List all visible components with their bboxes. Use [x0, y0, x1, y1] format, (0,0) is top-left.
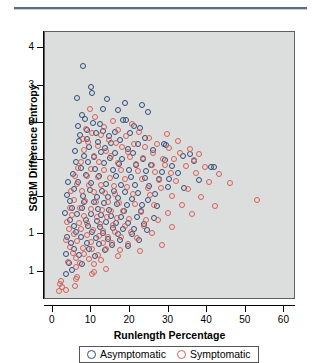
x-axis-tick-label: 60 [263, 314, 303, 325]
scatter-point [131, 141, 137, 147]
y-axis-tick-label: 4 [0, 42, 34, 52]
scatter-point [216, 171, 222, 177]
scatter-point [113, 173, 119, 179]
scatter-point [139, 102, 145, 108]
scatter-point [122, 176, 128, 182]
scatter-point [114, 215, 120, 221]
scatter-point [67, 205, 73, 211]
scatter-point [134, 214, 140, 220]
scatter-point [159, 242, 165, 248]
x-axis-tick [52, 306, 53, 312]
x-axis-tick-label: 50 [225, 314, 265, 325]
legend-marker-circle-icon [87, 350, 96, 359]
scatter-point [175, 170, 181, 176]
scatter-point [202, 164, 208, 170]
scatter-point [97, 221, 103, 227]
scatter-point [156, 177, 162, 183]
scatter-point [154, 141, 160, 147]
scatter-point [137, 248, 143, 254]
scatter-point [62, 210, 68, 216]
x-axis-tick [206, 306, 207, 312]
scatter-point [187, 146, 193, 152]
scatter-point [132, 201, 138, 207]
scatter-point [191, 157, 197, 163]
y-axis-tick-label: 3 [0, 80, 34, 90]
y-axis-tick [37, 85, 43, 86]
legend-item-asymptomatic[interactable]: Asymptomatic [87, 349, 166, 360]
y-axis-tick-label: 2 [0, 191, 34, 201]
scatter-point [106, 137, 112, 143]
x-axis-tick [283, 306, 284, 312]
scatter-point [73, 264, 79, 270]
scatter-point [74, 95, 80, 101]
y-axis-tick-label: 1 [0, 228, 34, 238]
scatter-point [112, 229, 118, 235]
scatter-point [93, 199, 99, 205]
scatter-point [126, 216, 132, 222]
scatter-point [100, 106, 106, 112]
scatter-point [147, 192, 153, 198]
plot-panel [44, 31, 295, 299]
scatter-point [64, 219, 70, 225]
scatter-point [128, 174, 134, 180]
y-axis-line [43, 31, 44, 299]
scatter-point [150, 150, 156, 156]
legend-label: Symptomatic [190, 349, 251, 360]
scatter-point [193, 170, 199, 176]
scatter-point [104, 96, 110, 102]
scatter-point [155, 217, 161, 223]
scatter-point [80, 245, 86, 251]
scatter-point [72, 283, 78, 289]
scatter-point [82, 198, 88, 204]
scatter-point [206, 179, 212, 185]
scatter-point [145, 109, 151, 115]
scatter-point [189, 211, 195, 217]
scatter-point [124, 202, 130, 208]
scatter-point [115, 160, 121, 166]
scatter-point [165, 184, 171, 190]
scatter-point [99, 207, 105, 213]
scatter-point [89, 90, 95, 96]
scatter-point [146, 135, 152, 141]
scatter-point [164, 131, 170, 137]
scatter-point [168, 170, 174, 176]
scatter-point [63, 287, 69, 293]
scatter-point [165, 210, 171, 216]
legend-label: Asymptomatic [100, 349, 166, 360]
scatter-point [98, 257, 104, 263]
scatter-point [128, 229, 134, 235]
scatter-point [179, 202, 185, 208]
scatter-point [81, 213, 87, 219]
scatter-point [159, 169, 165, 175]
x-axis-tick [168, 306, 169, 312]
scatter-point [138, 209, 144, 215]
scatter-point [169, 224, 175, 230]
scatter-point [80, 63, 86, 69]
scatter-point [71, 197, 77, 203]
scatter-point [171, 156, 177, 162]
x-axis-title: Runlength Percentage [44, 329, 295, 341]
scatter-point [76, 220, 82, 226]
scatter-point [98, 132, 104, 138]
scatter-point [66, 226, 72, 232]
scatter-point [254, 197, 260, 203]
scatter-point [75, 123, 81, 129]
scatter-point [86, 182, 92, 188]
scatter-point [85, 159, 91, 165]
scatter-point [74, 211, 80, 217]
scatter-point [183, 163, 189, 169]
scatter-point [110, 167, 116, 173]
scatter-plot-figure: SGLM Difference Entropy Runlength Percen… [0, 12, 313, 362]
scatter-point [166, 145, 172, 151]
scatter-point [84, 232, 90, 238]
y-axis-tick [37, 122, 43, 123]
scatter-point [122, 189, 128, 195]
legend-item-symptomatic[interactable]: Symptomatic [177, 349, 251, 360]
scatter-point [196, 177, 202, 183]
scatter-point [103, 266, 109, 272]
scatter-point [102, 190, 108, 196]
scatter-point [115, 127, 121, 133]
scatter-point [122, 100, 128, 106]
scatter-point [119, 144, 125, 150]
y-axis-tick [37, 271, 43, 272]
